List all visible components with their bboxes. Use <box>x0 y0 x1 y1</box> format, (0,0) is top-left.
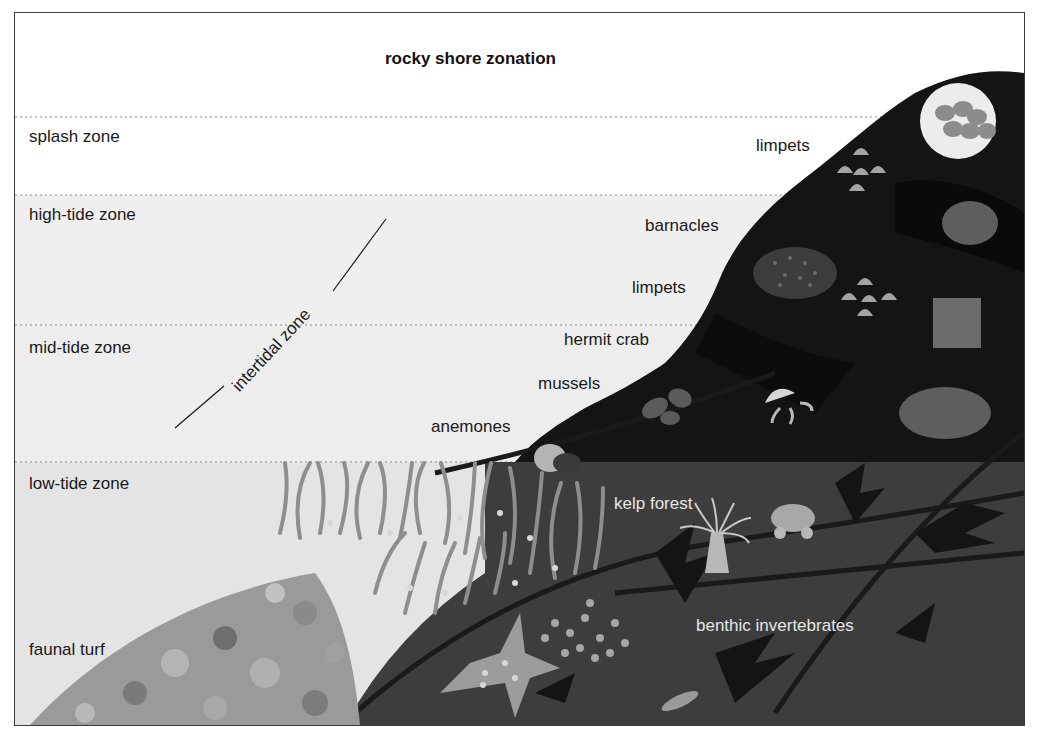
label-limpets-lower: limpets <box>632 279 686 296</box>
zone-label-mid-tide: mid-tide zone <box>29 339 131 356</box>
diagram-title: rocky shore zonation <box>385 50 556 67</box>
label-hermit-crab: hermit crab <box>564 331 649 348</box>
zone-label-splash: splash zone <box>29 128 120 145</box>
periwinkle-inset <box>920 83 996 159</box>
label-mussels: mussels <box>538 375 600 392</box>
zone-label-low-tide: low-tide zone <box>29 475 129 492</box>
shore-illustration <box>15 13 1024 725</box>
label-kelp-forest: kelp forest <box>614 495 692 512</box>
label-benthic-invertebrates: benthic invertebrates <box>696 617 854 634</box>
zone-label-high-tide: high-tide zone <box>29 206 136 223</box>
diagram-frame: rocky shore zonation splash zone high-ti… <box>14 12 1025 726</box>
barnacle-patch <box>753 247 837 299</box>
label-limpets-upper: limpets <box>756 137 810 154</box>
label-anemones: anemones <box>431 418 510 435</box>
label-faunal-turf: faunal turf <box>29 641 105 658</box>
label-barnacles: barnacles <box>645 217 719 234</box>
